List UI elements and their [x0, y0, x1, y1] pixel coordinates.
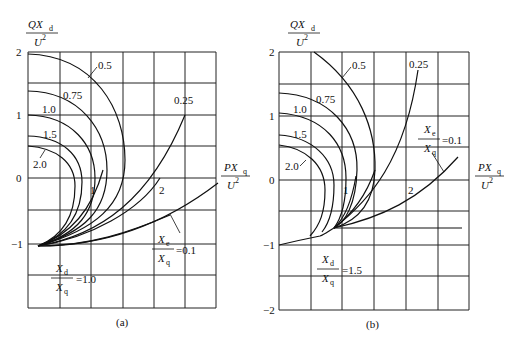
- svg-text:0.25: 0.25: [409, 58, 429, 70]
- panel-b-x-axis-label: PX q U 2: [475, 161, 504, 191]
- svg-text:QX: QX: [290, 18, 306, 30]
- svg-text:2.0: 2.0: [33, 158, 47, 170]
- panel-a-ratio-label: X d X q =1.0: [51, 262, 96, 296]
- svg-text:X: X: [55, 281, 64, 293]
- svg-text:2: 2: [489, 176, 493, 185]
- svg-text:QX: QX: [28, 18, 44, 30]
- panel-b-ytick-2: 2: [269, 46, 275, 58]
- panel-a-caption: (a): [116, 316, 129, 329]
- svg-text:=1.0: =1.0: [76, 273, 96, 285]
- svg-text:0.5: 0.5: [98, 59, 112, 71]
- svg-text:q: q: [166, 258, 170, 267]
- svg-text:2: 2: [159, 184, 165, 196]
- svg-text:d: d: [311, 24, 315, 33]
- svg-text:X: X: [157, 233, 166, 245]
- panel-a-ytick-2: 2: [16, 46, 22, 58]
- panel-b-ytick-neg1: −1: [263, 239, 275, 251]
- panel-b-ratio-label: X d X q =1.5: [317, 253, 362, 287]
- panel-b-ytick-0: 0: [269, 174, 275, 186]
- panel-a-ytick-0: 0: [16, 172, 22, 184]
- svg-text:2: 2: [304, 33, 308, 42]
- svg-text:X: X: [321, 253, 330, 265]
- svg-text:1.5: 1.5: [43, 128, 57, 140]
- svg-text:2.0: 2.0: [285, 160, 299, 172]
- panel-a-ytick-neg1: −1: [11, 238, 23, 250]
- svg-text:d: d: [64, 268, 68, 277]
- svg-text:=0.1: =0.1: [442, 134, 462, 146]
- panel-b: QX d U 2 2 1 0 −1 −2 PX q U 2: [263, 18, 504, 331]
- svg-text:d: d: [330, 259, 334, 268]
- svg-text:q: q: [330, 278, 334, 287]
- svg-text:1.5: 1.5: [293, 128, 307, 140]
- panel-b-ytick-1: 1: [269, 110, 275, 122]
- svg-text:1.0: 1.0: [293, 103, 307, 115]
- svg-text:q: q: [243, 167, 247, 176]
- panel-a-xe-label: X e X q =0.1: [152, 214, 196, 267]
- svg-text:=0.1: =0.1: [176, 244, 196, 256]
- figure: QX d U 2 2 1 0 −1 PX q U 2: [0, 0, 515, 341]
- svg-text:X: X: [423, 123, 432, 135]
- panel-a-x-axis-label: PX q U 2: [221, 161, 250, 191]
- panel-b-caption: (b): [366, 318, 379, 331]
- svg-text:2: 2: [408, 184, 414, 196]
- svg-text:1.0: 1.0: [42, 103, 56, 115]
- svg-text:X: X: [321, 272, 330, 284]
- svg-text:q: q: [432, 148, 436, 157]
- panel-a-curve-labels: 0.5 0.75 1.0 1.5 2.0 1 2 0.25: [33, 59, 194, 196]
- svg-text:0.5: 0.5: [352, 59, 366, 71]
- svg-text:0.75: 0.75: [63, 89, 83, 101]
- svg-text:PX: PX: [477, 161, 493, 173]
- svg-text:1: 1: [90, 184, 96, 196]
- svg-text:q: q: [497, 167, 501, 176]
- svg-text:1: 1: [343, 184, 349, 196]
- svg-text:X: X: [423, 142, 432, 154]
- svg-text:2: 2: [42, 33, 46, 42]
- panel-b-ytick-neg2: −2: [263, 304, 275, 316]
- panel-a-ytick-1: 1: [16, 109, 22, 121]
- svg-text:X: X: [55, 262, 64, 274]
- svg-text:=1.5: =1.5: [342, 264, 362, 276]
- panel-a: QX d U 2 2 1 0 −1 PX q U 2: [11, 18, 250, 329]
- svg-text:0.75: 0.75: [316, 93, 336, 105]
- svg-text:0.25: 0.25: [174, 94, 194, 106]
- svg-text:d: d: [49, 24, 53, 33]
- panel-b-y-axis-label: QX d U 2: [288, 18, 320, 48]
- svg-text:X: X: [157, 252, 166, 264]
- svg-text:e: e: [432, 129, 436, 138]
- svg-text:PX: PX: [223, 161, 239, 173]
- svg-text:2: 2: [235, 176, 239, 185]
- panel-a-y-axis-label: QX d U 2: [26, 18, 58, 48]
- svg-text:e: e: [166, 239, 170, 248]
- svg-text:q: q: [64, 287, 68, 296]
